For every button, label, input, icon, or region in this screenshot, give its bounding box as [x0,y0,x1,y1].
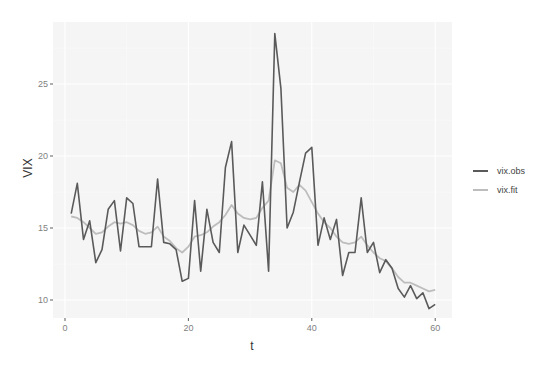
legend-label-fit: vix.fit [497,185,518,195]
x-tick-label: 40 [307,323,317,333]
y-axis: 10152025 [38,79,53,305]
legend-item-obs: vix.obs [473,166,526,176]
x-tick-label: 20 [183,323,193,333]
x-tick-label: 60 [430,323,440,333]
legend: vix.obs vix.fit [473,166,526,195]
legend-item-fit: vix.fit [473,185,518,195]
x-axis: 0204060 [62,318,440,333]
plot-panel [53,22,452,318]
y-tick-label: 10 [38,295,48,305]
legend-label-obs: vix.obs [497,166,526,176]
y-tick-label: 20 [38,151,48,161]
y-tick-label: 25 [38,79,48,89]
x-tick-label: 0 [62,323,67,333]
x-axis-title: t [250,339,254,353]
line-chart: 10152025 0204060 t VIX vix.obs vix.fit [0,0,549,369]
y-axis-title: VIX [21,158,35,177]
y-tick-label: 15 [38,223,48,233]
